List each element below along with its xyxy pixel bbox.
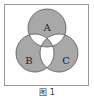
label-a: A (42, 22, 51, 33)
figure-caption: 图 1 (0, 86, 94, 97)
label-c: C (62, 55, 70, 66)
label-b: B (25, 55, 32, 66)
venn-diagram: A B C (0, 0, 94, 99)
